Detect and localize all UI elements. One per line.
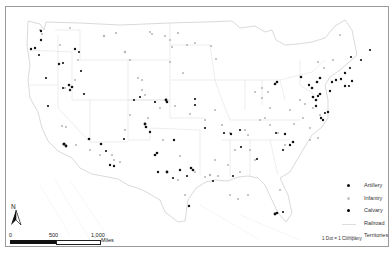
us-map [0,0,392,255]
us-outline [27,20,357,222]
legend-item-infantry: Infantry [342,193,390,206]
north-arrow-icon [9,206,23,228]
scale-bar-black-segment [10,240,56,244]
artillery-cavalry-dots [30,30,371,216]
legend-item-artillery: Artillery [342,180,390,193]
scale-unit: Miles [101,237,114,243]
legend-item-railroad: Railroad [342,218,390,231]
artillery-dot-icon [347,184,350,187]
scale-tick-0: 0 [9,232,12,238]
legend-item-cavalry: Calvary [342,205,390,218]
legend: Artillery Infantry Calvary Railroad Terr… [342,180,390,243]
scale-tick-500: 500 [49,232,58,238]
infantry-dot-icon [347,197,350,200]
railroad-lines [40,180,300,240]
cavalry-dot-icon [347,209,350,212]
scale-bar-white-segment [56,240,101,245]
scale-bar [10,240,99,244]
railroad-line-icon [342,224,356,225]
legend-note: 1 Dot = 1 Company [322,236,362,241]
state-borders [30,23,325,178]
infantry-dots [39,27,341,200]
